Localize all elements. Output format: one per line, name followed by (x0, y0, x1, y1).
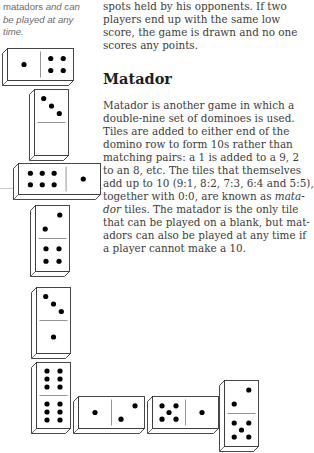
text-line: score, the game is drawn and no one (103, 26, 297, 39)
sidebar-caption: matadors and can be played at any time. (3, 1, 85, 39)
domino-6-1 (13, 163, 102, 201)
domino-3-blank (29, 89, 70, 162)
text-line: that can be played on a blank, but mat- (103, 216, 310, 229)
domino-2-4 (30, 205, 71, 278)
text-line: double-nine set of dominoes is used. (103, 112, 295, 125)
domino-2-5 (219, 380, 260, 453)
domino-6-6 (31, 362, 72, 435)
domino-1-4 (2, 48, 75, 87)
text-line: add up to 10 (9:1, 8:2, 7:3, 6:4 and 5:5… (103, 177, 314, 190)
section-heading: Matador (103, 70, 172, 87)
text-line: adors can also be played at any time if (103, 229, 306, 242)
caption-line: be played at any (3, 14, 85, 27)
caption-line: matadors and can (3, 1, 85, 14)
text-line: Tiles are added to either end of the (103, 125, 289, 138)
text-line: scores any points. (103, 39, 198, 52)
text-line: players end up with the same low (103, 13, 280, 26)
text-line: dor tiles. The matador is the only tile (103, 203, 298, 216)
text-line: spots held by his opponents. If two (103, 0, 287, 13)
text-line: Matador is another game in which a (103, 99, 294, 112)
caption-line: time. (3, 26, 85, 39)
text-line: domino row to form 10s rather than (103, 138, 293, 151)
domino-1-2 (73, 396, 146, 435)
text-line: matching pairs: a 1 is added to a 9, 2 (103, 151, 299, 164)
text-line: together with 0:0, are known as mata- (103, 190, 305, 203)
domino-3-1 (31, 287, 72, 360)
domino-5-1 (147, 396, 220, 435)
text-line: a player cannot make a 10. (103, 242, 246, 255)
text-line: to an 8, etc. The tiles that themselves (103, 164, 301, 177)
